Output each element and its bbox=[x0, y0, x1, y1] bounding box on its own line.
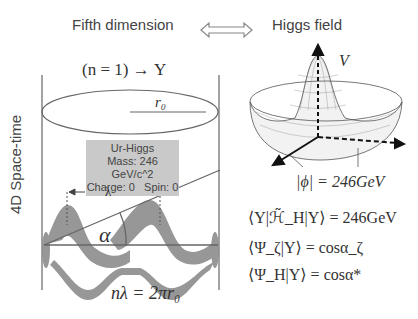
potential-label: V bbox=[339, 52, 349, 70]
higgs-field-title: Higgs field bbox=[272, 16, 342, 33]
double-arrow-icon bbox=[201, 23, 252, 37]
particle-mass: Mass: 246 GeV/c^2 bbox=[86, 155, 179, 181]
ur-higgs-info-box: Ur-Higgs Mass: 246 GeV/c^2 Charge: 0 Spi… bbox=[86, 140, 179, 196]
equation-zeta: ⟨Ψ_ζ|Υ⟩ = cosα_ζ bbox=[248, 238, 363, 257]
mexican-hat-potential bbox=[250, 55, 402, 160]
spacetime-axis-label: 4D Space-time bbox=[7, 115, 24, 214]
radius-label: r₀ bbox=[155, 94, 166, 111]
particle-name: Ur-Higgs bbox=[86, 142, 179, 155]
vev-label: |ϕ| = 246GeV bbox=[296, 173, 384, 191]
particle-charge-spin: Charge: 0 Spin: 0 bbox=[86, 181, 179, 194]
quantization-condition: nλ = 2πr₀ bbox=[111, 283, 180, 304]
equation-energy: ⟨Υ|ℋ̃_H|Υ⟩ = 246GeV bbox=[248, 208, 397, 227]
state-label: (n = 1) → Υ bbox=[82, 60, 166, 80]
angle-label: α bbox=[99, 222, 111, 248]
wavelength-label: λ bbox=[105, 184, 111, 200]
equation-higgs: ⟨Ψ_H|Υ⟩ = cosα* bbox=[248, 265, 361, 284]
